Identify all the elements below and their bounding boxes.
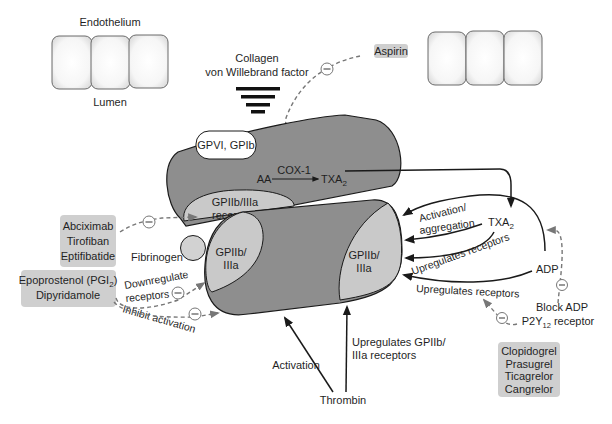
endothelial-cell [428,32,466,85]
downregulate-label-2: receptors [125,287,170,304]
inhibit-icon-p2y12 [497,313,508,324]
endothelial-cell [91,36,130,89]
inhibit-icon-downregulate [172,287,184,299]
endothelial-cell [52,36,92,89]
drug-cangrelor: Cangrelor [505,383,554,395]
drug-eptifibatide: Eptifibatide [61,250,115,262]
aa-label: AA [257,173,272,185]
aspirin-label: Aspirin [374,45,408,57]
inhibit-icon-gp2b3a [143,216,155,228]
inhibit-icon-adp-receptor [557,280,568,291]
lower-right-gp2b3a-label-2: IIIa [356,262,372,274]
txa2-mediator-label: TXA2 [488,216,514,231]
thrombin-upregulates-label-2: IIIa receptors [352,349,417,361]
upper-gp2b3a-label-1: GPIIb/IIIa [212,196,259,208]
block-adp-label-1: Block ADP [536,301,588,313]
thrombin-label: Thrombin [320,394,366,406]
endothelium-cells-left [52,35,168,89]
adp-upregulates-label: Upregulates receptors [416,282,520,299]
endothelial-cell [504,31,542,85]
block-adp-label-2: P2Y12 receptor [522,315,595,330]
subendothelium-layers-icon [236,87,280,114]
endothelial-cell [129,35,168,88]
fibrinogen-label: Fibrinogen [131,251,183,263]
collagen-label: Collagen [235,52,278,64]
platelet-pathway-diagram: Endothelium Lumen Collagen von Willebran… [0,0,612,424]
endothelium-label: Endothelium [79,16,140,28]
endothelial-cell [466,31,504,85]
drug-tirofiban: Tirofiban [67,235,109,247]
lower-left-gp2b3a-label-2: IIIa [223,259,239,271]
drug-abciximab: Abciximab [63,220,114,232]
inhibit-icon-aspirin [321,63,333,75]
adp-label: ADP [536,263,559,275]
thrombin-activation-arrow [285,318,333,392]
lumen-label: Lumen [93,96,127,108]
vwf-label: von Willebrand factor [205,66,309,78]
inhibit-icon-activation [189,308,201,320]
lower-left-gp2b3a-label-1: GPIIb/ [215,246,247,258]
endothelium-cells-right [428,31,542,85]
gpvi-gpib-label: GPVI, GPIb [197,139,254,151]
drug-prasugrel: Prasugrel [505,358,552,370]
thrombin-upregulates-label-1: Upregulates GPIIb/ [352,336,446,348]
thrombin-activation-label: Activation [272,359,320,371]
drug-clopidogrel: Clopidogrel [501,345,557,357]
drug-ticagrelor: Ticagrelor [505,370,554,382]
lower-right-gp2b3a-label-1: GPIIb/ [348,249,380,261]
cox1-label: COX-1 [277,164,311,176]
thrombin-upregulates-arrow [346,307,347,392]
drug-dipyridamole: Dipyridamole [36,289,100,301]
inhibit-activation-label: Inhibit activation [121,302,197,334]
fibrinogen-molecule [181,236,206,261]
